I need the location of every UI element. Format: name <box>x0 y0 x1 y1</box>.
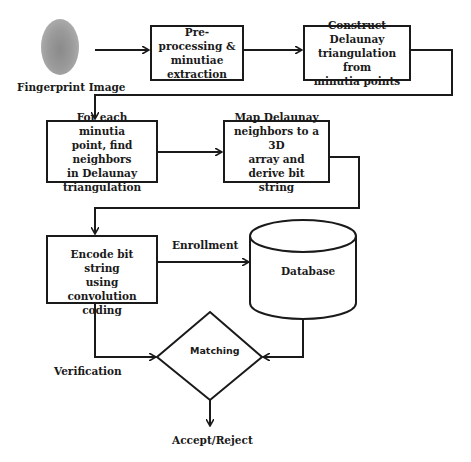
matching-diamond <box>157 312 262 400</box>
step-text-line: using convolution <box>52 275 152 303</box>
arrow-database-to-matching <box>263 319 303 357</box>
enrollment-label: Enrollment <box>172 239 238 251</box>
step-map3d: Map Delaunay neighbors to a 3D array and… <box>223 120 330 183</box>
step-text-line: Construct Delaunay <box>309 18 405 46</box>
step-delaunay: Construct Delaunay triangulation from mi… <box>303 25 411 81</box>
step-text-line: in Delaunay <box>52 166 152 180</box>
matching-label: Matching <box>190 345 240 356</box>
verification-label: Verification <box>54 365 122 377</box>
step-preprocess: Pre-processing & minutiae extraction <box>150 25 244 81</box>
step-text-line: neighbors to a 3D <box>229 124 324 152</box>
step-text-line: triangulation <box>52 180 152 194</box>
step-text-line: Pre-processing & <box>156 25 238 53</box>
step-text-line: For each minutia <box>52 110 152 138</box>
step-text-line: minutiae <box>156 53 238 67</box>
step-text-line: string <box>229 180 324 194</box>
step-text-line: minutia points <box>309 74 405 88</box>
database-label: Database <box>281 265 335 277</box>
step-text-line: triangulation from <box>309 46 405 74</box>
fingerprint-label: Fingerprint Image <box>17 81 125 93</box>
step-text-line: extraction <box>156 67 238 81</box>
step-text-line: array and derive bit <box>229 152 324 180</box>
flowchart: Fingerprint Image Pre-processing & minut… <box>0 0 471 462</box>
fingerprint-icon <box>41 19 79 75</box>
step-text-line: point, find neighbors <box>52 138 152 166</box>
accept-reject-label: Accept/Reject <box>172 434 253 446</box>
step-text-line: Map Delaunay <box>229 110 324 124</box>
step-text-line: Encode bit string <box>52 247 152 275</box>
step-text-line: coding <box>52 303 152 317</box>
step-encode: Encode bit string using convolution codi… <box>46 235 158 304</box>
step-neighbors: For each minutia point, find neighbors i… <box>46 120 158 183</box>
